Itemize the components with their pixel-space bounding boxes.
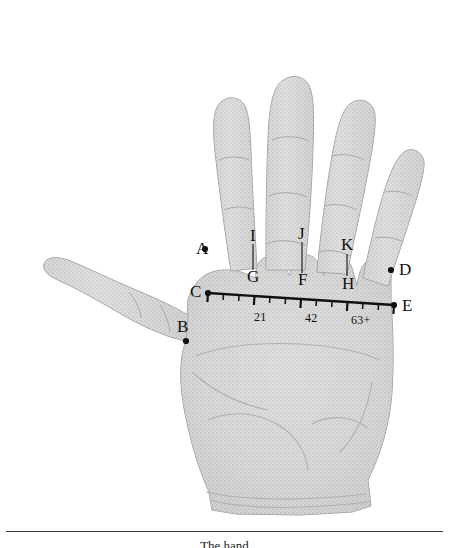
point-label-d: D [399,261,411,278]
point-label-a: A [196,240,208,257]
landmark-dot-c [205,290,211,296]
scale-number-label: 42 [305,312,317,324]
point-label-i: I [250,227,256,244]
point-label-f: F [298,271,307,288]
figure-caption: The hand [0,538,449,548]
point-label-h: H [342,275,354,292]
point-label-j: J [298,225,305,242]
scale-tick-major [254,296,255,305]
point-label-e: E [402,297,412,314]
hand-figure: ABCDEFGHIJK 214263+ The hand [0,0,449,548]
scale-tick-major [300,299,301,308]
landmark-dot-b [183,338,189,344]
bottom-rule [6,531,443,532]
scale-number-label: 63+ [351,314,370,326]
landmark-dot-e [391,302,397,308]
point-label-c: C [190,283,201,300]
scale-tick-major [347,302,348,311]
landmark-dot-d [388,267,394,273]
point-label-g: G [247,268,259,285]
point-label-b: B [177,318,188,335]
point-label-k: K [341,236,353,253]
scale-number-label: 21 [254,311,266,323]
age-scale [0,0,449,548]
